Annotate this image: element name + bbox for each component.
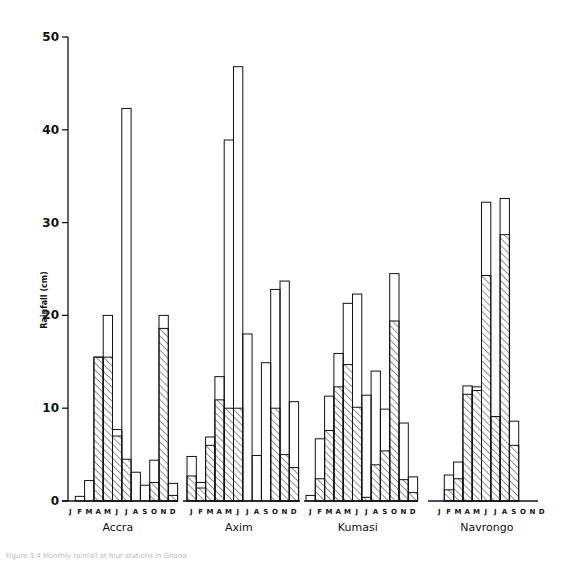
month-label: D <box>291 508 297 516</box>
bar-hatched-segment <box>224 408 233 501</box>
month-label: D <box>410 508 416 516</box>
y-tick-label: 30 <box>42 216 59 230</box>
bar-hatched-segment <box>325 430 334 501</box>
month-label: A <box>217 508 223 516</box>
month-label: D <box>170 508 176 516</box>
bar-hatched-segment <box>168 495 177 501</box>
station-label: Navrongo <box>460 521 513 534</box>
month-label: J <box>68 508 72 516</box>
month-label: M <box>473 508 480 516</box>
y-tick-label: 0 <box>51 494 59 508</box>
bar-total <box>122 108 131 501</box>
bar-hatched-segment <box>491 417 500 501</box>
bar-hatched-segment <box>362 497 371 501</box>
month-label: S <box>142 508 148 516</box>
bar-hatched-segment <box>408 493 417 501</box>
panel-axim: JFMAMJJASONDAxim <box>183 67 300 534</box>
bar-hatched-segment <box>159 328 168 501</box>
month-label: F <box>77 508 82 516</box>
rainfall-chart: 01020304050 Rainfall (cm) JFMAMJJASONDAc… <box>0 0 569 566</box>
month-label: N <box>281 508 287 516</box>
month-label: A <box>465 508 471 516</box>
bar-total <box>362 395 371 501</box>
panel-navrongo: JFMAMJJASONDNavrongo <box>428 198 545 534</box>
y-tick-label: 50 <box>42 30 59 44</box>
month-label: M <box>344 508 351 516</box>
month-label: M <box>326 508 333 516</box>
bar-hatched-segment <box>509 445 518 501</box>
month-label: J <box>493 508 497 516</box>
month-label: M <box>207 508 214 516</box>
y-axis-title: Rainfall (cm) <box>40 271 49 329</box>
month-label: A <box>254 508 260 516</box>
bar-hatched-segment <box>390 321 399 501</box>
month-label: J <box>364 508 368 516</box>
month-label: S <box>511 508 517 516</box>
bar-hatched-segment <box>280 455 289 501</box>
month-label: J <box>115 508 119 516</box>
bar-hatched-segment <box>353 407 362 501</box>
month-label: J <box>355 508 359 516</box>
month-label: A <box>96 508 102 516</box>
bar-hatched-segment <box>103 357 112 501</box>
bar-hatched-segment <box>371 465 380 501</box>
panel-accra: JFMAMJJASONDAccra <box>62 108 178 534</box>
month-label: M <box>455 508 462 516</box>
bar-hatched-segment <box>113 436 122 501</box>
month-label: J <box>189 508 193 516</box>
y-tick-label: 40 <box>42 123 59 137</box>
bar-hatched-segment <box>289 468 298 501</box>
y-axis: 01020304050 <box>42 30 68 508</box>
month-label: J <box>245 508 249 516</box>
month-label: O <box>151 508 157 516</box>
bar-hatched-segment <box>399 480 408 501</box>
bar-total <box>261 363 270 501</box>
month-label: J <box>124 508 128 516</box>
month-label: O <box>272 508 278 516</box>
bar-hatched-segment <box>343 365 352 501</box>
bar-hatched-segment <box>150 482 159 501</box>
month-label: F <box>317 508 322 516</box>
month-label: A <box>133 508 139 516</box>
month-label: J <box>308 508 312 516</box>
month-label: A <box>373 508 379 516</box>
bar-total <box>140 485 149 501</box>
figure-caption: Figure 3.4 Monthly rainfall at four stat… <box>6 552 566 560</box>
month-label: J <box>484 508 488 516</box>
month-label: F <box>446 508 451 516</box>
bar-hatched-segment <box>215 400 224 501</box>
month-label: A <box>502 508 508 516</box>
bar-hatched-segment <box>463 394 472 501</box>
month-label: J <box>437 508 441 516</box>
bar-hatched-segment <box>122 459 131 501</box>
bar-hatched-segment <box>482 275 491 501</box>
bar-hatched-segment <box>454 479 463 501</box>
month-label: J <box>236 508 240 516</box>
bar-hatched-segment <box>500 235 509 501</box>
bar-hatched-segment <box>380 451 389 501</box>
y-tick-label: 10 <box>42 401 59 415</box>
month-label: N <box>160 508 166 516</box>
bar-total <box>243 334 252 501</box>
month-label: A <box>336 508 342 516</box>
bar-hatched-segment <box>187 476 196 501</box>
month-label: F <box>198 508 203 516</box>
month-label: D <box>539 508 545 516</box>
bar-total <box>85 481 94 501</box>
bar-total <box>306 495 315 501</box>
bar-hatched-segment <box>444 490 453 501</box>
bar-hatched-segment <box>472 391 481 501</box>
bar-hatched-segment <box>271 408 280 501</box>
month-label: S <box>263 508 269 516</box>
month-label: M <box>86 508 93 516</box>
bar-total <box>131 472 140 501</box>
chart-panels: JFMAMJJASONDAccraJFMAMJJASONDAximJFMAMJJ… <box>62 67 545 534</box>
station-label: Axim <box>225 521 253 534</box>
panel-kumasi: JFMAMJJASONDKumasi <box>304 274 418 534</box>
bar-total <box>252 456 261 501</box>
month-label: M <box>104 508 111 516</box>
bar-hatched-segment <box>234 408 243 501</box>
bar-hatched-segment <box>206 445 215 501</box>
bar-hatched-segment <box>196 488 205 501</box>
bar-total <box>75 496 84 501</box>
